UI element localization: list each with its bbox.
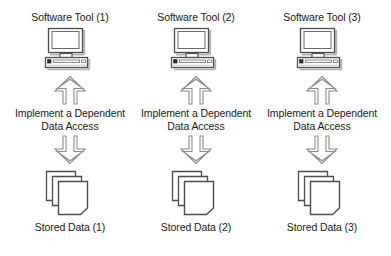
access-label-2: Implement a Dependent Data Access xyxy=(141,107,251,132)
software-tool-label-1: Software Tool (1) xyxy=(31,11,108,23)
software-tool-label-2: Software Tool (2) xyxy=(157,11,234,23)
access-label-1: Implement a Dependent Data Access xyxy=(15,107,125,132)
software-tool-label-3: Software Tool (3) xyxy=(283,11,360,23)
desktop-computer-icon xyxy=(44,28,96,72)
hollow-arrow-up-icon xyxy=(52,75,88,105)
hollow-arrow-down-icon xyxy=(304,135,340,165)
access-label-line2: Data Access xyxy=(15,120,125,133)
access-label-3: Implement a Dependent Data Access xyxy=(267,107,377,132)
stacked-documents-icon xyxy=(168,169,224,217)
access-label-line2: Data Access xyxy=(141,120,251,133)
access-label-line2: Data Access xyxy=(267,120,377,133)
stacked-documents-icon xyxy=(42,169,98,217)
hollow-arrow-down-icon xyxy=(178,135,214,165)
diagram-canvas: Software Tool (1) Imp xyxy=(0,0,391,256)
stored-data-label-1: Stored Data (1) xyxy=(35,221,105,233)
desktop-computer-icon xyxy=(170,28,222,72)
stored-data-label-3: Stored Data (3) xyxy=(287,221,357,233)
hollow-arrow-up-icon xyxy=(178,75,214,105)
access-label-line1: Implement a Dependent xyxy=(141,107,251,120)
diagram-column-3: Software Tool (3) Imp xyxy=(257,0,387,256)
desktop-computer-icon xyxy=(296,28,348,72)
stored-data-label-2: Stored Data (2) xyxy=(161,221,231,233)
diagram-column-1: Software Tool (1) Imp xyxy=(5,0,135,256)
hollow-arrow-up-icon xyxy=(304,75,340,105)
access-label-line1: Implement a Dependent xyxy=(267,107,377,120)
stacked-documents-icon xyxy=(294,169,350,217)
diagram-column-2: Software Tool (2) Imp xyxy=(131,0,261,256)
hollow-arrow-down-icon xyxy=(52,135,88,165)
access-label-line1: Implement a Dependent xyxy=(15,107,125,120)
